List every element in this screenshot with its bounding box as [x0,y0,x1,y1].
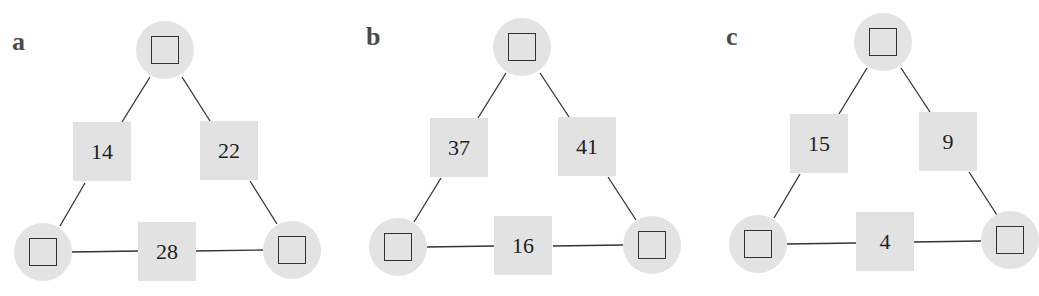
puzzle-c: c 15 9 4 [0,0,1039,296]
node-bottom-left [729,215,787,273]
edge-sum-bottom: 4 [856,212,914,271]
edge-sum-left: 15 [790,114,848,173]
answer-box[interactable] [869,28,897,56]
edge-sum-right: 9 [919,112,977,171]
node-bottom-right [981,211,1039,269]
answer-box[interactable] [744,230,772,258]
puzzle-label: c [726,22,738,52]
answer-box[interactable] [996,226,1024,254]
node-top [854,13,912,71]
